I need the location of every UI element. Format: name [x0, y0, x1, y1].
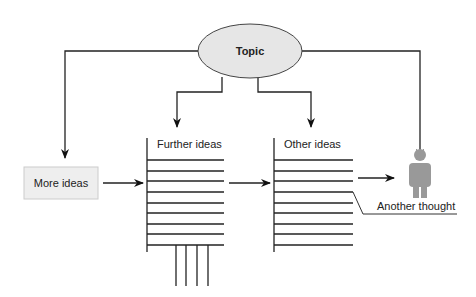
- more-ideas-label: More ideas: [34, 177, 89, 189]
- topic-node[interactable]: Topic: [198, 24, 302, 78]
- further-ideas-node[interactable]: Further ideas: [147, 138, 224, 286]
- person-icon[interactable]: [409, 149, 431, 198]
- edge-topic-further-ideas: [177, 77, 222, 127]
- other-ideas-node[interactable]: Other ideas: [274, 138, 457, 252]
- another-thought-label: Another thought: [377, 200, 455, 212]
- further-ideas-label: Further ideas: [157, 138, 222, 150]
- topic-label: Topic: [236, 45, 265, 57]
- other-ideas-label: Other ideas: [284, 138, 341, 150]
- edge-topic-other-ideas: [258, 77, 311, 127]
- diagram-canvas: Topic More ideas Further ideas: [0, 0, 476, 297]
- more-ideas-node[interactable]: More ideas: [24, 167, 98, 199]
